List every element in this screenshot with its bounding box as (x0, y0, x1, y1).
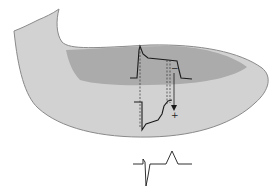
ventricle-diagram (0, 0, 278, 193)
ecg-trace (133, 151, 192, 186)
minus-sign: − (171, 64, 179, 73)
plus-sign: + (171, 111, 179, 120)
diagram-canvas: − + (0, 0, 278, 193)
